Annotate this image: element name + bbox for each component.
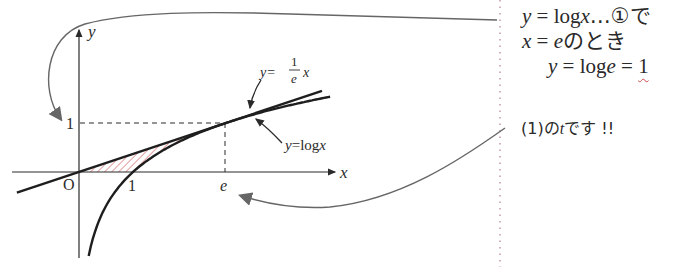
log-curve [89,97,330,256]
origin-label: O [63,176,75,193]
frac-denominator: e [291,71,297,86]
x-tick-e: e [220,177,227,194]
annotation-arrow-to-e [242,128,505,208]
log-curve-label: y=logx [283,137,326,153]
tangent-label-pointer-arrow [250,80,261,108]
svg-text:x: x [302,65,310,80]
log-label-pointer-arrow [256,119,282,143]
frac-numerator: 1 [291,54,298,69]
note-line-3: y = loge = 1 [548,54,649,78]
note-line-1: y = logx…①で [522,4,651,28]
tangent-line-label: y= 1 e x [258,54,310,86]
note-line-4: (1)のtです !! [521,119,614,139]
svg-text:y=: y= [258,65,276,80]
y-axis-label: y [86,22,96,41]
x-tick-1: 1 [128,177,136,194]
result-value-underlined: 1 [638,54,649,78]
x-axis-label: x [339,163,348,182]
y-tick-1: 1 [66,115,74,132]
note-line-2: x = eのとき [522,29,626,53]
